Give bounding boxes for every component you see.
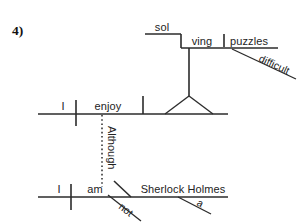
sub-subject-word: I	[57, 183, 60, 195]
subordinating-conjunction-word: Although	[106, 126, 118, 169]
predicate-nominative-word: Sherlock Holmes	[141, 183, 226, 195]
gerund-part-1-word: sol	[155, 21, 169, 33]
item-number-label: 4)	[12, 23, 23, 38]
gerund-stand-left-leg-line	[165, 96, 189, 114]
gerund-stand-right-leg-line	[189, 96, 213, 114]
main-verb-word: enjoy	[95, 100, 122, 112]
gerund-object-word: puzzles	[230, 35, 268, 47]
main-subject-word: I	[61, 100, 64, 112]
predicate-nominative-modifier-word: a	[195, 196, 206, 209]
gerund-object-modifier-word: difficult	[257, 52, 292, 77]
verb-modifier-word: not	[117, 200, 136, 218]
gerund-part-2-word: ving	[192, 35, 213, 47]
sub-verb-word: am	[87, 183, 102, 195]
predicate-nominative-slant-divider-line	[114, 181, 131, 197]
sentence-diagram-container: 4) sol ving puzzles difficult I enjoy Al…	[0, 0, 302, 224]
sentence-diagram-canvas: 4) sol ving puzzles difficult I enjoy Al…	[0, 0, 302, 224]
article-modifier-slant-line	[178, 197, 211, 214]
